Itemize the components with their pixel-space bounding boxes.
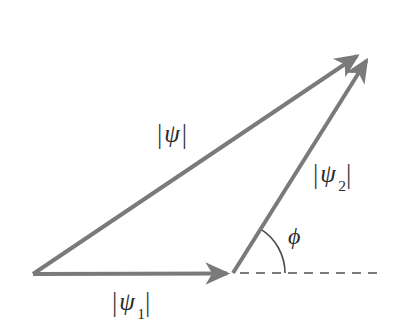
psi2-magnitude-label: |ψ2| — [313, 160, 351, 191]
psi1-subscript: 1 — [137, 306, 145, 322]
vector-psi1 — [33, 274, 227, 275]
phi-angle-label: ϕ — [286, 224, 302, 248]
psi1-bar-right: | — [145, 289, 150, 316]
psi-bar-right: | — [182, 121, 187, 148]
psi1-magnitude-label: |ψ1| — [112, 288, 150, 319]
psi-bar-left: | — [157, 121, 162, 148]
psi2-bar-left: | — [313, 161, 318, 188]
psi1-bar-left: | — [112, 289, 117, 316]
phi-symbol: ϕ — [286, 224, 302, 248]
vector-diagram-figure: |ψ| |ψ2| |ψ1| ϕ — [0, 0, 398, 323]
psi2-symbol: ψ — [318, 161, 338, 186]
psi2-bar-right: | — [346, 161, 351, 188]
psi-magnitude-label: |ψ| — [157, 120, 187, 147]
psi2-subscript: 2 — [338, 178, 346, 194]
psi-symbol: ψ — [162, 121, 182, 146]
psi1-symbol: ψ — [117, 289, 137, 314]
